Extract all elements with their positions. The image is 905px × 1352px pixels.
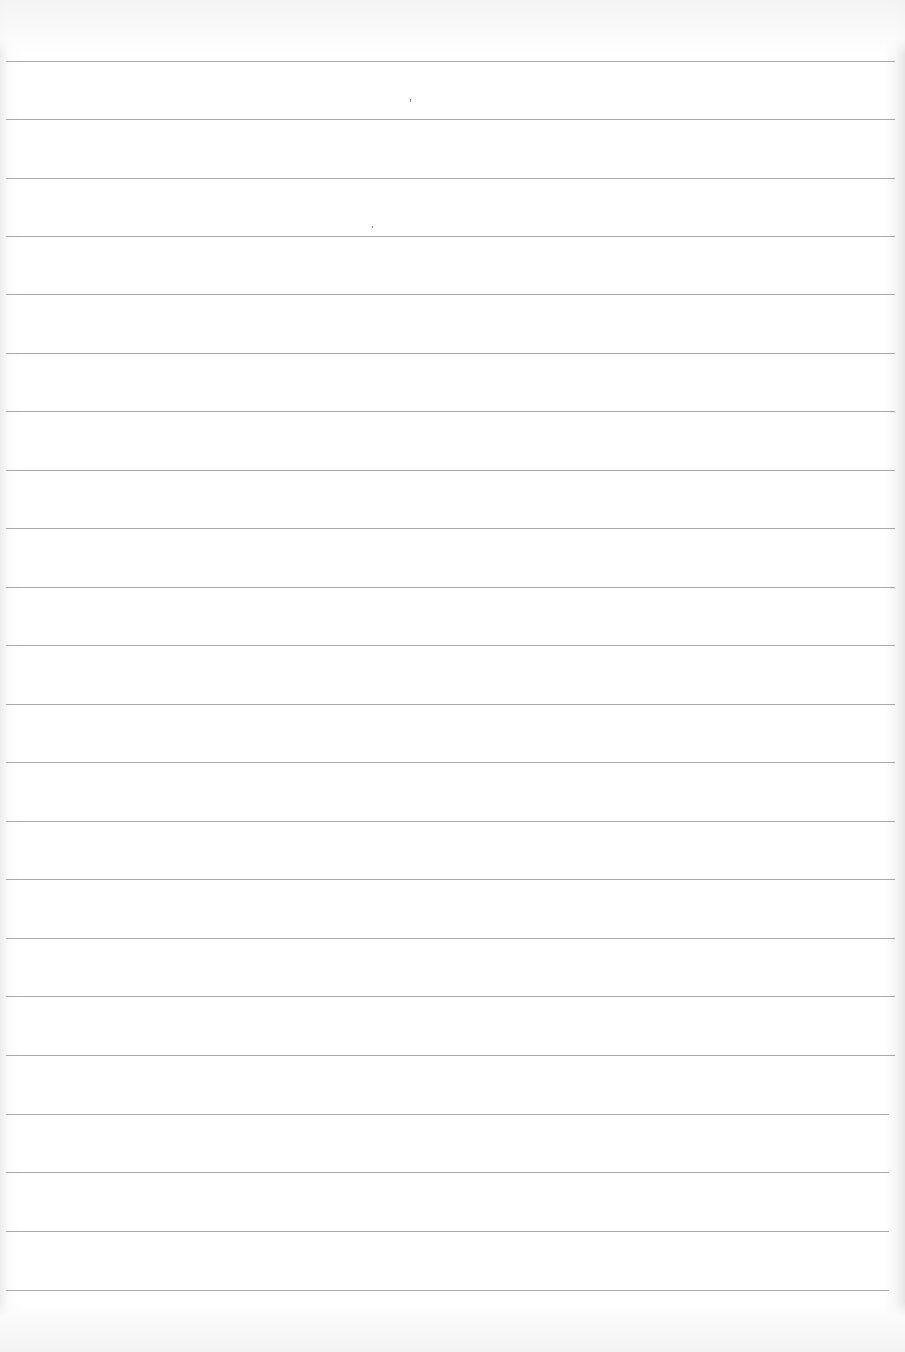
paper-speck (410, 99, 411, 102)
ruled-line (6, 938, 895, 939)
ruled-line (6, 236, 895, 237)
paper-speck (372, 226, 373, 228)
paper-texture-top (0, 0, 905, 55)
ruled-line (6, 704, 895, 705)
ruled-line (6, 879, 895, 880)
ruled-line (6, 645, 895, 646)
ruled-line (6, 821, 895, 822)
ruled-line (6, 1231, 889, 1232)
ruled-line (6, 470, 895, 471)
ruled-line (6, 178, 895, 179)
ruled-paper-sheet (0, 0, 905, 1352)
ruled-line (6, 119, 895, 120)
ruled-line (6, 1172, 889, 1173)
ruled-line (6, 353, 895, 354)
ruled-line (6, 587, 895, 588)
ruled-line (6, 294, 895, 295)
ruled-line (6, 762, 895, 763)
ruled-line (6, 996, 895, 997)
ruled-line (6, 1114, 889, 1115)
ruled-line (6, 61, 895, 62)
ruled-line (6, 1290, 889, 1291)
ruled-line (6, 1055, 895, 1056)
paper-texture-bottom (0, 1302, 905, 1352)
ruled-line (6, 411, 895, 412)
ruled-line (6, 528, 895, 529)
